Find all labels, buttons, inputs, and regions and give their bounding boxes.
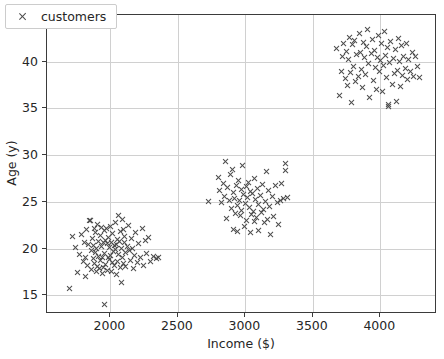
data-point-marker xyxy=(339,53,346,60)
data-point-marker xyxy=(394,67,401,74)
y-axis-tick xyxy=(42,107,46,108)
data-point-marker xyxy=(252,218,259,225)
data-point-marker xyxy=(83,226,90,233)
data-point-marker xyxy=(231,226,238,233)
data-point-marker xyxy=(95,253,102,260)
data-point-marker xyxy=(90,255,97,262)
data-point-marker xyxy=(349,41,356,48)
data-point-marker xyxy=(92,249,99,256)
data-point-marker xyxy=(153,255,160,262)
data-point-marker xyxy=(340,40,347,47)
data-point-marker xyxy=(91,260,98,267)
x-axis-tick-label: 3000 xyxy=(228,318,260,333)
data-point-marker xyxy=(231,195,238,202)
data-point-marker xyxy=(120,226,127,233)
data-point-marker xyxy=(398,42,405,49)
data-point-marker xyxy=(140,262,147,269)
gridline-vertical xyxy=(110,15,111,312)
data-point-marker xyxy=(137,254,144,261)
data-point-marker xyxy=(336,92,343,99)
data-point-marker xyxy=(342,75,349,82)
data-point-marker xyxy=(227,171,234,178)
data-point-marker xyxy=(265,187,272,194)
data-point-marker xyxy=(134,259,141,266)
data-point-marker xyxy=(220,180,227,187)
gridline-vertical xyxy=(178,15,179,312)
data-point-marker xyxy=(393,98,400,105)
data-point-marker xyxy=(282,167,289,174)
data-point-marker xyxy=(84,262,91,269)
data-point-marker xyxy=(99,254,106,261)
data-point-marker xyxy=(116,251,123,258)
data-point-marker xyxy=(76,251,83,258)
data-point-marker xyxy=(113,241,120,248)
data-point-marker xyxy=(355,73,362,80)
data-point-marker xyxy=(116,238,123,245)
data-point-marker xyxy=(117,264,124,271)
y-axis-tick xyxy=(42,294,46,295)
data-point-marker xyxy=(75,269,82,276)
data-point-marker xyxy=(385,101,392,108)
data-point-marker xyxy=(86,217,93,224)
data-point-marker xyxy=(230,189,237,196)
data-point-marker xyxy=(354,51,361,58)
data-point-marker xyxy=(111,262,118,269)
x-axis-tick xyxy=(244,313,245,317)
gridline-vertical xyxy=(380,15,381,312)
data-point-marker xyxy=(353,78,360,85)
data-point-marker xyxy=(156,254,163,261)
data-point-marker xyxy=(261,219,268,226)
data-point-marker xyxy=(266,203,273,210)
data-point-marker xyxy=(391,70,398,77)
data-point-marker xyxy=(270,213,277,220)
data-point-marker xyxy=(373,86,380,93)
x-axis-tick-label: 2500 xyxy=(161,318,193,333)
data-point-marker xyxy=(101,227,108,234)
data-point-marker xyxy=(409,49,416,56)
data-point-marker xyxy=(100,239,107,246)
y-axis-label: Age (y) xyxy=(4,140,19,185)
data-point-marker xyxy=(92,229,99,236)
data-point-marker xyxy=(238,186,245,193)
gridline-horizontal xyxy=(47,62,435,63)
data-point-marker xyxy=(215,174,222,181)
data-point-marker xyxy=(130,265,137,272)
data-point-marker xyxy=(114,258,121,265)
data-point-marker xyxy=(351,37,358,44)
data-point-marker xyxy=(348,99,355,106)
data-point-marker xyxy=(256,227,263,234)
legend-marker-x-icon xyxy=(18,12,27,21)
data-point-marker xyxy=(100,264,107,271)
legend[interactable]: customers xyxy=(5,4,117,29)
data-point-marker xyxy=(125,222,132,229)
data-point-marker xyxy=(131,252,138,259)
data-point-marker xyxy=(404,76,411,83)
x-axis-tick-label: 3500 xyxy=(296,318,328,333)
data-point-marker xyxy=(334,45,341,52)
data-point-marker xyxy=(119,216,126,223)
data-point-marker xyxy=(368,50,375,57)
y-axis-tick xyxy=(42,61,46,62)
data-point-marker xyxy=(402,65,409,72)
data-point-marker xyxy=(370,77,377,84)
data-point-marker xyxy=(263,168,270,175)
y-axis-tick-label: 15 xyxy=(22,287,38,302)
data-point-marker xyxy=(392,46,399,53)
data-point-marker xyxy=(257,192,264,199)
data-point-marker xyxy=(103,261,110,268)
data-point-marker xyxy=(127,257,134,264)
data-point-marker xyxy=(98,224,105,231)
data-point-marker xyxy=(114,236,121,243)
data-point-marker xyxy=(225,184,232,191)
data-point-marker xyxy=(69,233,76,240)
data-point-marker xyxy=(350,63,357,70)
y-axis-tick-label: 35 xyxy=(22,100,38,115)
data-point-marker xyxy=(117,228,124,235)
data-point-marker xyxy=(284,194,291,201)
data-point-marker xyxy=(118,279,125,286)
data-point-marker xyxy=(115,212,122,219)
data-point-marker xyxy=(382,52,389,59)
data-point-marker xyxy=(122,249,129,256)
data-point-marker xyxy=(144,250,151,257)
data-point-marker xyxy=(122,233,129,240)
